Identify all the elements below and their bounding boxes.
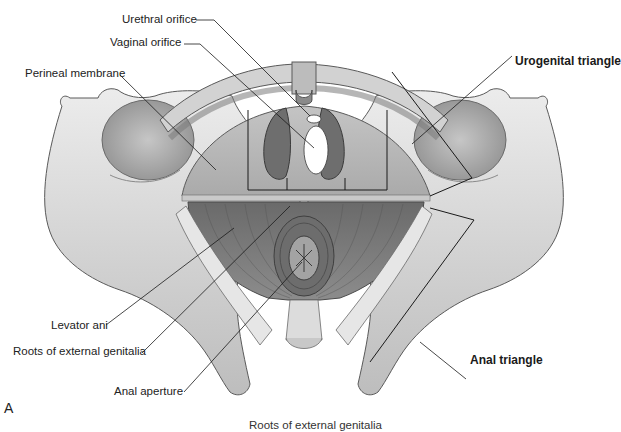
label-vaginal-orifice: Vaginal orifice	[110, 37, 181, 49]
label-levator-ani: Levator ani	[51, 320, 108, 332]
label-perineal-membrane: Perineal membrane	[25, 68, 125, 80]
anal-aperture-structure	[274, 216, 334, 296]
label-roots-external-genitalia: Roots of external genitalia	[13, 346, 146, 358]
label-urogenital-triangle: Urogenital triangle	[515, 55, 621, 67]
vaginal-orifice-shape	[304, 126, 328, 174]
label-urethral-orifice: Urethral orifice	[122, 14, 197, 26]
label-anal-triangle: Anal triangle	[470, 354, 543, 366]
urethral-orifice-shape	[307, 115, 321, 123]
caption-partial: Roots of external genitalia	[249, 420, 382, 432]
panel-letter: A	[4, 400, 13, 416]
label-anal-aperture: Anal aperture	[114, 386, 183, 398]
